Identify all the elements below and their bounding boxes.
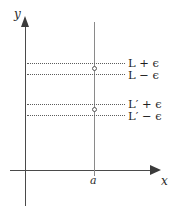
y-axis-label: y: [14, 8, 21, 20]
dotted-line-Lprime-minus-epsilon: [27, 115, 125, 116]
dotted-line-L-plus-epsilon: [27, 63, 125, 64]
y-axis-line: [25, 24, 26, 206]
x-axis-label: x: [161, 175, 168, 187]
bound-label-Lprime-minus-epsilon: L′ − ϵ: [128, 111, 162, 123]
dotted-line-Lprime-plus-epsilon: [27, 104, 125, 105]
dotted-line-L-minus-epsilon: [27, 74, 125, 75]
open-circle-point-Lprime: [92, 107, 97, 112]
x-axis-arrowhead-icon: [150, 165, 161, 175]
open-circle-point-L: [92, 66, 97, 71]
x-axis-line: [10, 170, 158, 171]
x-tick-label-a: a: [90, 175, 97, 186]
limit-diagram: x y a L + ϵ L − ϵ L′ + ϵ L′ − ϵ: [0, 0, 175, 213]
bound-label-L-minus-epsilon: L − ϵ: [128, 70, 159, 82]
y-axis-arrowhead-icon: [21, 16, 29, 27]
vertical-line-at-a: [94, 22, 95, 176]
